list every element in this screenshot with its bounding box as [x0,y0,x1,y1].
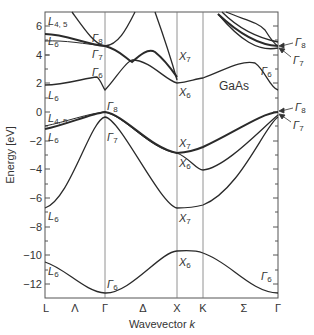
sym-label: L6 [48,131,59,145]
ytick-label: −4 [29,163,42,175]
y-tick-labels: 6 4 2 0 −2 −4 −6 −8 −10 −12 [23,20,42,290]
xtick-label: K [199,302,207,314]
sym-label: Γ6 [261,270,272,284]
band-upper-right-4 [226,12,278,46]
ytick-label: 2 [36,77,42,89]
sym-label: Γ8 [295,36,306,50]
sym-label: L6 [48,265,59,279]
sym-label: L6 [48,89,59,103]
sym-label: Γ8 [295,101,306,115]
sym-label: X6 [178,256,191,270]
sym-label: Γ7 [92,48,103,62]
ytick-label: −12 [23,278,42,290]
ytick-label: −2 [29,135,42,147]
sym-label: Γ6 [261,65,272,79]
sym-label: Γ7 [293,54,304,68]
y-ticks [45,26,278,284]
sym-label: X6 [178,157,191,171]
band-x6-branch [177,115,278,170]
sym-label: Γ6 [107,278,118,292]
arrows [279,43,293,122]
ytick-label: 6 [36,20,42,32]
plot-frame [45,12,278,298]
xtick-label: X [173,302,181,314]
sym-label: Γ6 [92,66,103,80]
x-axis-var: k [190,318,196,330]
ytick-label: −10 [23,249,42,261]
sym-label: Γ8 [107,100,118,114]
band-valence-2 [45,117,278,208]
xtick-label: Σ [241,302,248,314]
sym-label: X7 [178,137,191,151]
sym-label: L4, 5 [48,112,68,126]
bands [45,12,278,293]
ytick-label: 0 [36,106,42,118]
x-axis-title: Wavevector k [129,318,196,330]
xtick-label: Γ [102,302,108,314]
ytick-label: −6 [29,192,42,204]
xtick-label: Γ [275,302,281,314]
material-label: GaAs [219,79,249,93]
xtick-label: Δ [139,302,147,314]
x-axis-title-text: Wavevector [129,318,190,330]
sym-label: X7 [178,50,191,64]
sym-label: L6 [48,210,59,224]
sym-label: Γ8 [92,32,103,46]
xtick-label: L [43,302,49,314]
sym-label: Γ7 [107,131,118,145]
ytick-label: −8 [29,221,42,233]
band-structure-chart: 6 4 2 0 −2 −4 −6 −8 −10 −12 L Λ Γ Δ X K … [0,0,314,335]
sym-label: X6 [178,86,191,100]
sym-label: Γ7 [293,119,304,133]
x-tick-labels: L Λ Γ Δ X K Σ Γ [43,302,281,314]
xtick-label: Λ [71,302,79,314]
ytick-label: 4 [36,49,42,61]
sym-label: L6 [48,35,59,49]
sym-label: X7 [178,212,191,226]
y-axis-title: Energy [eV] [4,126,16,183]
sym-label: L4, 5 [48,15,68,29]
band-lowest [45,251,278,293]
band-upper-right-1 [155,12,177,80]
